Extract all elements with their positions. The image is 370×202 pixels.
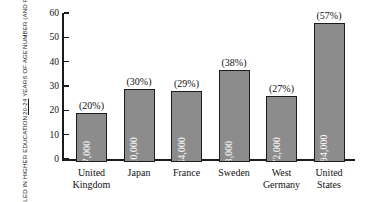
bar-percent-label: (20%) bbox=[79, 100, 104, 111]
y-tick-label: 40 bbox=[50, 57, 60, 67]
plot-area: 0102030405060 897,000(20%)2,410,000(30%)… bbox=[62, 8, 358, 166]
chart-figure: NUMBER (AND PERCENT) OF PERSONS 20-24 YE… bbox=[0, 0, 370, 202]
bar[interactable]: 223,000 bbox=[219, 70, 250, 162]
y-axis-title: NUMBER (AND PERCENT) OF PERSONS 20-24 YE… bbox=[5, 0, 45, 155]
y-tick-label: 50 bbox=[50, 32, 60, 42]
bar[interactable]: 1,472,000 bbox=[266, 96, 297, 162]
bar-count-label: 2,410,000 bbox=[129, 137, 139, 162]
bar-count-label: 897,000 bbox=[82, 141, 92, 162]
bar[interactable]: 2,410,000 bbox=[124, 89, 155, 162]
bar-group[interactable]: 12,394,000(57%) bbox=[314, 11, 345, 166]
y-tick-mark bbox=[64, 110, 69, 111]
y-axis-title-line-3: ENROLLED IN HIGHER EDUCATION bbox=[21, 116, 29, 202]
bar-count-label: 12,394,000 bbox=[319, 135, 329, 162]
y-tick-mark bbox=[64, 85, 69, 86]
bar-group[interactable]: 2,410,000(30%) bbox=[124, 11, 155, 166]
bar-count-label: 1,472,000 bbox=[272, 137, 282, 162]
y-tick-label: 0 bbox=[54, 154, 59, 164]
x-axis-label-line: States bbox=[299, 179, 359, 191]
bar-percent-label: (57%) bbox=[317, 10, 342, 21]
bar-percent-label: (30%) bbox=[127, 76, 152, 87]
bar-percent-label: (29%) bbox=[174, 78, 199, 89]
bar-count-label: 223,000 bbox=[224, 141, 234, 162]
y-tick-label: 10 bbox=[50, 130, 60, 140]
bar[interactable]: 897,000 bbox=[76, 113, 107, 162]
y-tick-label: 60 bbox=[50, 8, 60, 18]
bar[interactable]: 12,394,000 bbox=[314, 23, 345, 162]
bar[interactable]: 1,144,000 bbox=[171, 91, 202, 162]
y-axis-title-line-2: 20-24 YEARS OF AGE bbox=[21, 50, 29, 115]
y-axis-title-line-1: NUMBER (AND PERCENT) OF PERSONS bbox=[21, 0, 29, 49]
bar-group[interactable]: 223,000(38%) bbox=[219, 11, 250, 166]
bar-group[interactable]: 1,144,000(29%) bbox=[171, 11, 202, 166]
bar-group[interactable]: 897,000(20%) bbox=[76, 11, 107, 166]
x-axis-label: UnitedStates bbox=[299, 167, 359, 190]
y-axis-title-line-2-underlined: 20-24 bbox=[21, 99, 28, 115]
y-tick-mark bbox=[64, 12, 69, 13]
y-tick-label: 30 bbox=[50, 81, 60, 91]
y-tick-mark bbox=[64, 158, 69, 159]
bar-group[interactable]: 1,472,000(27%) bbox=[266, 11, 297, 166]
bar-percent-label: (38%) bbox=[222, 57, 247, 68]
bar-percent-label: (27%) bbox=[269, 83, 294, 94]
bar-count-label: 1,144,000 bbox=[177, 137, 187, 162]
y-tick-mark bbox=[64, 37, 69, 38]
x-axis-label-line: United bbox=[299, 167, 359, 179]
y-tick-mark bbox=[64, 61, 69, 62]
y-tick-mark bbox=[64, 134, 69, 135]
x-axis-label-line: Kingdom bbox=[62, 179, 122, 191]
y-axis-title-line-2-rest: YEARS OF AGE bbox=[21, 50, 28, 99]
y-tick-label: 20 bbox=[50, 105, 60, 115]
